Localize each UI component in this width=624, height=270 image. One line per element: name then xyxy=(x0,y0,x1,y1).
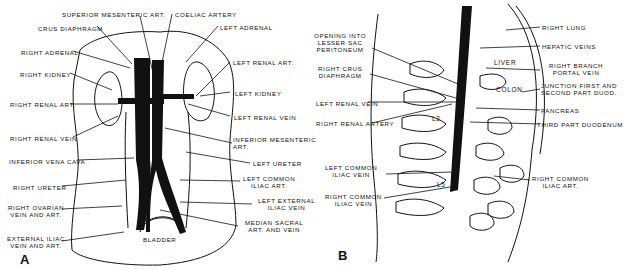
line-art xyxy=(0,0,624,270)
label-junction-first-and-second-part-duod: JUNCTION FIRST AND SECOND PART DUOD. xyxy=(541,82,617,96)
label-left-common-iliac-vein: LEFT COMMON ILIAC VEIN xyxy=(325,164,377,178)
panel-b-front-outline xyxy=(508,4,536,262)
label-inferior-vena-cava: INFERIOR VENA CAVA xyxy=(9,158,85,165)
label-right-ureter: RIGHT URETER xyxy=(13,184,67,191)
label-vertebra-l2: L2 xyxy=(432,115,441,122)
label-vertebra-l5: L5 xyxy=(437,181,446,188)
anatomy-figure: SUPERIOR MESENTERIC ART. COELIAC ARTERY … xyxy=(0,0,624,270)
panel-b-aorta-shape xyxy=(450,6,472,192)
panel-label-b: B xyxy=(338,248,347,263)
label-coeliac-artery: COELIAC ARTERY xyxy=(175,11,237,18)
label-inferior-mesenteric-art: INFERIOR MESENTERIC ART. xyxy=(233,136,316,150)
label-median-sacral-art-and-vein: MEDIAN SACRAL ART. AND VEIN xyxy=(245,219,303,233)
label-right-adrenal: RIGHT ADRENAL xyxy=(21,49,79,56)
label-right-common-iliac-vein: RIGHT COMMON ILIAC VEIN xyxy=(325,193,382,207)
label-colon: COLON xyxy=(496,86,523,93)
label-right-common-iliac-art: RIGHT COMMON ILIAC ART. xyxy=(532,175,589,189)
label-right-lung: RIGHT LUNG xyxy=(542,24,586,31)
label-external-iliac-vein-and-art: EXTERNAL ILIAC VEIN AND ART. xyxy=(7,235,65,249)
label-crus-diaphragm: CRUS DIAPHRAGM xyxy=(38,25,103,32)
panel-b-back-outline xyxy=(371,14,378,262)
label-third-part-duodenum: THIRD PART DUODENUM xyxy=(537,121,623,128)
label-superior-mesenteric-art: SUPERIOR MESENTERIC ART. xyxy=(62,11,166,18)
label-right-kidney: RIGHT KIDNEY xyxy=(20,71,71,78)
label-left-renal-vein-b: LEFT RENAL VEIN xyxy=(316,100,378,107)
label-right-renal-artery: RIGHT RENAL ARTERY xyxy=(316,120,394,127)
left-kidney-outline xyxy=(184,62,215,121)
label-right-ovarian-vein-and-art: RIGHT OVARIAN VEIN AND ART. xyxy=(8,204,64,218)
label-left-renal-art: LEFT RENAL ART. xyxy=(233,59,294,66)
label-liver: LIVER xyxy=(494,59,516,66)
label-left-adrenal: LEFT ADRENAL xyxy=(220,24,273,31)
label-left-renal-vein: LEFT RENAL VEIN xyxy=(234,114,296,121)
label-pancreas: PANCREAS xyxy=(541,107,579,114)
panel-label-a: A xyxy=(20,252,29,267)
label-right-renal-vein: RIGHT RENAL VEIN xyxy=(10,135,77,142)
aorta-shape xyxy=(146,60,186,234)
label-right-renal-art: RIGHT RENAL ART. xyxy=(10,101,76,108)
label-left-ureter: LEFT URETER xyxy=(253,160,302,167)
label-hepatic-veins: HEPATIC VEINS xyxy=(542,43,596,50)
label-left-common-iliac-art: LEFT COMMON ILIAC ART. xyxy=(243,175,295,189)
right-kidney-outline xyxy=(95,72,122,126)
label-opening-into-lesser-sac-peritoneum: OPENING INTO LESSER SAC PERITONEUM xyxy=(314,32,366,54)
label-left-external-iliac-vein: LEFT EXTERNAL ILIAC VEIN xyxy=(258,197,315,211)
label-left-kidney: LEFT KIDNEY xyxy=(235,90,281,97)
label-bladder: BLADDER xyxy=(143,236,176,243)
label-right-branch-portal-vein: RIGHT BRANCH PORTAL VEIN xyxy=(549,62,603,76)
label-right-crus-diaphragm: RIGHT CRUS DIAPHRAGM xyxy=(318,65,362,79)
